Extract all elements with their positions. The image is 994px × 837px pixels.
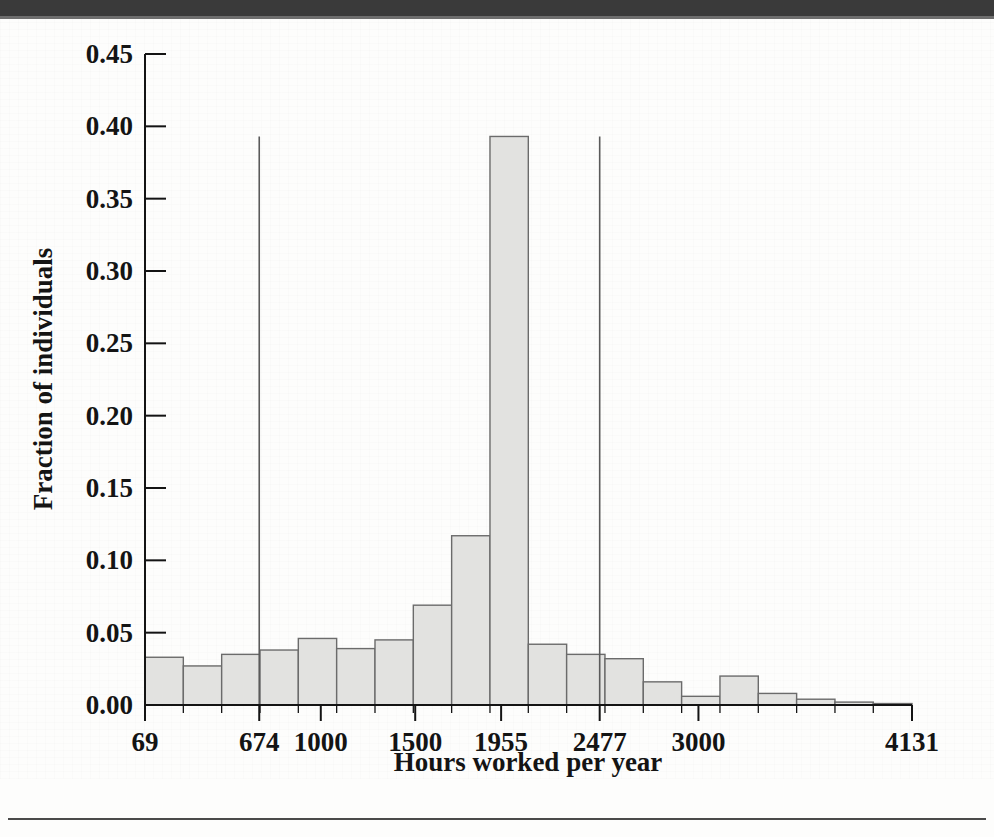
y-axis-tick-label: 0.45 xyxy=(86,39,133,69)
y-axis-tick-label: 0.35 xyxy=(86,184,133,214)
y-axis-tick-label: 0.20 xyxy=(86,401,133,431)
y-axis-tick-label: 0.05 xyxy=(86,618,133,648)
y-axis-tick-label: 0.40 xyxy=(86,111,133,141)
histogram-bar xyxy=(337,649,375,705)
y-axis-tick-label: 0.15 xyxy=(86,473,133,503)
x-axis-tick-label: 4131 xyxy=(885,727,939,757)
histogram-chart: 0.000.050.100.150.200.250.300.350.400.45… xyxy=(0,19,994,779)
y-axis-tick-label: 0.10 xyxy=(86,545,133,575)
histogram-bar xyxy=(260,650,298,705)
footer-rule xyxy=(8,818,986,820)
y-axis-title: Fraction of individuals xyxy=(28,248,58,511)
histogram-bar xyxy=(452,536,490,705)
x-axis-tick-label: 69 xyxy=(132,727,159,757)
histogram-bar xyxy=(528,644,566,705)
histogram-bar xyxy=(413,605,451,705)
x-axis-tick-label: 1000 xyxy=(294,727,348,757)
y-axis-tick-label: 0.25 xyxy=(86,328,133,358)
scan-top-band xyxy=(0,0,994,16)
histogram-bars xyxy=(145,136,912,705)
histogram-bar xyxy=(643,682,681,705)
histogram-bar xyxy=(183,666,221,705)
histogram-bar xyxy=(758,693,796,705)
histogram-bar xyxy=(490,136,528,705)
histogram-figure: 0.000.050.100.150.200.250.300.350.400.45… xyxy=(0,19,994,779)
x-axis-tick-label: 3000 xyxy=(671,727,725,757)
x-axis-title: Hours worked per year xyxy=(394,747,663,777)
histogram-bar xyxy=(720,676,758,705)
figure-page: 0.000.050.100.150.200.250.300.350.400.45… xyxy=(0,0,994,837)
y-axis-tick-label: 0.00 xyxy=(86,690,133,720)
x-axis-tick-label: 674 xyxy=(239,727,280,757)
histogram-bar xyxy=(298,638,336,705)
histogram-bar xyxy=(222,654,260,705)
y-axis-ticks: 0.000.050.100.150.200.250.300.350.400.45 xyxy=(86,39,166,720)
histogram-bar xyxy=(605,659,643,705)
y-axis-tick-label: 0.30 xyxy=(86,256,133,286)
histogram-bar xyxy=(145,657,183,705)
histogram-bar xyxy=(682,696,720,705)
histogram-bar xyxy=(375,640,413,705)
